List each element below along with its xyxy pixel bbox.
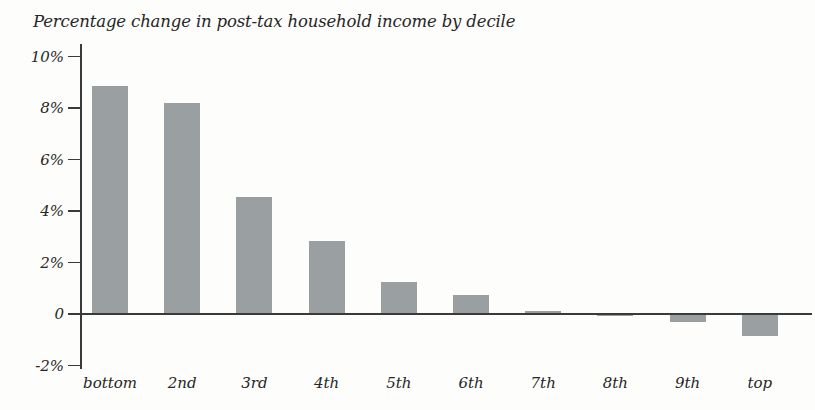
y-axis-tick-label: 8% (2, 99, 64, 117)
bar-6th (453, 295, 489, 314)
zero-baseline (80, 313, 812, 315)
y-axis-tick-label: 0 (2, 305, 64, 323)
x-axis-label-5th: 5th (386, 374, 411, 392)
y-axis-tick-label: -2% (2, 357, 64, 375)
bar-top (742, 314, 778, 336)
bar-5th (381, 282, 417, 314)
x-axis-label-3rd: 3rd (241, 374, 267, 392)
x-axis-label-bottom: bottom (83, 374, 137, 392)
chart-figure: Percentage change in post-tax household … (0, 0, 815, 410)
x-axis-label-7th: 7th (531, 374, 556, 392)
y-axis-tick-label: 10% (2, 48, 64, 66)
x-axis-label-6th: 6th (458, 374, 483, 392)
bar-bottom (92, 86, 128, 314)
bar-9th (670, 314, 706, 322)
bar-2nd (164, 103, 200, 314)
x-axis-label-4th: 4th (314, 374, 339, 392)
bar-3rd (236, 197, 272, 314)
y-axis-tick-label: 6% (2, 151, 64, 169)
y-axis-tick-label: 2% (2, 254, 64, 272)
y-axis-tick-label: 4% (2, 202, 64, 220)
x-axis-label-top: top (747, 374, 772, 392)
chart-title: Percentage change in post-tax household … (33, 12, 515, 31)
plot-area (80, 44, 812, 368)
x-axis-label-2nd: 2nd (168, 374, 197, 392)
y-axis-labels: 10%8%6%4%2%0-2% (0, 0, 64, 410)
x-axis-label-8th: 8th (603, 374, 628, 392)
bar-4th (309, 241, 345, 314)
x-axis-label-9th: 9th (675, 374, 700, 392)
